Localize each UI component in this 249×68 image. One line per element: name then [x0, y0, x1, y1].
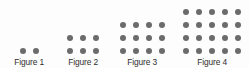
dot — [33, 48, 39, 54]
dot-cell — [129, 44, 142, 57]
figure-label-2: Figure 2 — [68, 57, 98, 68]
dot-cell — [193, 44, 206, 57]
dot-cell — [232, 31, 245, 44]
dot — [196, 35, 202, 41]
dot-cell — [219, 44, 232, 57]
dot — [67, 35, 73, 41]
dot — [209, 22, 215, 28]
dot-cell — [180, 31, 193, 44]
dot — [235, 48, 241, 54]
figure-label-1: Figure 1 — [14, 57, 44, 68]
dot-grid-3 — [116, 18, 168, 57]
dot — [222, 35, 228, 41]
dot — [222, 9, 228, 15]
dot — [209, 48, 215, 54]
dot-cell — [116, 44, 129, 57]
dot-cell — [129, 18, 142, 31]
dot-cell — [77, 31, 90, 44]
dot — [235, 35, 241, 41]
dot — [159, 48, 165, 54]
dot-cell — [155, 31, 168, 44]
dot-grid-4 — [180, 5, 245, 57]
dot-cell — [193, 18, 206, 31]
dot — [159, 35, 165, 41]
figure-group-3: Figure 3 — [113, 18, 171, 68]
dot — [146, 48, 152, 54]
dot-cell — [219, 18, 232, 31]
dot-cell — [116, 31, 129, 44]
dot-cell — [180, 18, 193, 31]
dot-cell — [64, 31, 77, 44]
dot-cell — [77, 44, 90, 57]
dot-pattern-figure-sequence: Figure 1Figure 2Figure 3Figure 4 — [0, 0, 249, 68]
figure-label-3: Figure 3 — [127, 57, 157, 68]
dot — [196, 22, 202, 28]
dot-cell — [232, 5, 245, 18]
dot — [183, 48, 189, 54]
dot — [93, 35, 99, 41]
dot — [222, 22, 228, 28]
dot-cell — [206, 18, 219, 31]
dot-cell — [64, 44, 77, 57]
dot — [133, 22, 139, 28]
figure-label-4: Figure 4 — [197, 57, 227, 68]
dot — [235, 22, 241, 28]
dot-cell — [116, 18, 129, 31]
dot-cell — [219, 31, 232, 44]
dot — [120, 22, 126, 28]
dot — [120, 35, 126, 41]
figure-group-1: Figure 1 — [3, 44, 55, 68]
dot — [80, 35, 86, 41]
dot — [80, 48, 86, 54]
dot-cell — [155, 18, 168, 31]
dot — [196, 48, 202, 54]
dot-cell — [206, 31, 219, 44]
dot-cell — [90, 44, 103, 57]
dot-cell — [232, 18, 245, 31]
figure-group-2: Figure 2 — [57, 31, 109, 68]
dot-cell — [206, 44, 219, 57]
dot — [159, 22, 165, 28]
dot-cell — [219, 5, 232, 18]
dot-cell — [193, 5, 206, 18]
dot — [146, 35, 152, 41]
dot-cell — [142, 44, 155, 57]
dot — [133, 35, 139, 41]
dot-cell — [29, 44, 42, 57]
dot — [133, 48, 139, 54]
dot-cell — [129, 31, 142, 44]
dot — [222, 48, 228, 54]
dot — [93, 48, 99, 54]
dot — [67, 48, 73, 54]
dot-cell — [155, 44, 168, 57]
dot — [183, 9, 189, 15]
dot-cell — [193, 31, 206, 44]
dot-grid-1 — [16, 44, 42, 57]
dot — [196, 9, 202, 15]
dot-cell — [142, 18, 155, 31]
dot — [120, 48, 126, 54]
dot-grid-2 — [64, 31, 103, 57]
dot — [183, 35, 189, 41]
dot-cell — [142, 31, 155, 44]
dot-cell — [232, 44, 245, 57]
dot-cell — [16, 44, 29, 57]
dot-cell — [180, 44, 193, 57]
dot — [209, 35, 215, 41]
dot — [209, 9, 215, 15]
dot — [183, 22, 189, 28]
dot-cell — [90, 31, 103, 44]
dot — [146, 22, 152, 28]
figure-group-4: Figure 4 — [177, 5, 247, 68]
dot-cell — [180, 5, 193, 18]
dot — [235, 9, 241, 15]
dot — [20, 48, 26, 54]
dot-cell — [206, 5, 219, 18]
